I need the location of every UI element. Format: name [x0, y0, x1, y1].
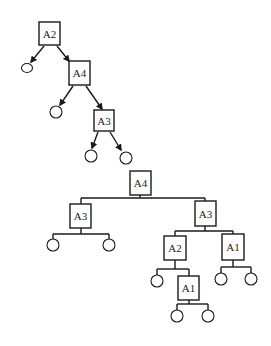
arrow-edge	[57, 46, 69, 61]
tree-1-arrow-style: A2A4A3	[22, 22, 133, 164]
arrow-edge	[31, 46, 44, 62]
leaf-node-circle	[202, 310, 214, 322]
tree-diagram: A2A4A3 A4A3A3A2A1A1	[0, 0, 271, 346]
leaf-node-circle	[50, 106, 62, 118]
node-label: A1	[226, 241, 239, 253]
node-label: A3	[74, 210, 88, 222]
leaf-node-circle	[47, 239, 59, 251]
node-label: A2	[43, 28, 56, 40]
leaf-node-circle	[151, 275, 163, 287]
node-t2-a2: A2	[164, 236, 186, 260]
leaf-node-circle	[85, 150, 97, 162]
node-t2-a1-bottom: A1	[178, 276, 199, 300]
node-label: A2	[168, 242, 181, 254]
leaf-node-circle	[103, 239, 115, 251]
node-t1-a2: A2	[39, 22, 60, 45]
node-label: A3	[199, 208, 213, 220]
node-label: A4	[134, 177, 148, 189]
arrow-edge	[110, 132, 121, 150]
leaf-node-circle	[120, 152, 132, 164]
node-t2-a3-left: A3	[70, 204, 91, 228]
node-label: A3	[97, 115, 111, 127]
leaf-node-circle	[22, 64, 33, 73]
node-label: A4	[73, 67, 87, 79]
arrow-edge	[92, 132, 98, 148]
tree-diagram-canvas: A2A4A3 A4A3A3A2A1A1	[0, 0, 271, 346]
node-t2-a1-right: A1	[222, 234, 244, 260]
node-t1-a4: A4	[69, 61, 90, 85]
node-t2-a4: A4	[130, 171, 151, 195]
leaf-node-circle	[245, 273, 257, 285]
node-t2-a3-right: A3	[195, 201, 216, 226]
node-t1-a3: A3	[94, 110, 114, 131]
node-label: A1	[182, 282, 195, 294]
arrow-edge	[60, 86, 73, 105]
leaf-node-circle	[171, 310, 183, 322]
leaf-node-circle	[215, 273, 227, 285]
arrow-edge	[86, 86, 102, 109]
tree-2-bracket-style: A4A3A3A2A1A1	[47, 171, 257, 322]
